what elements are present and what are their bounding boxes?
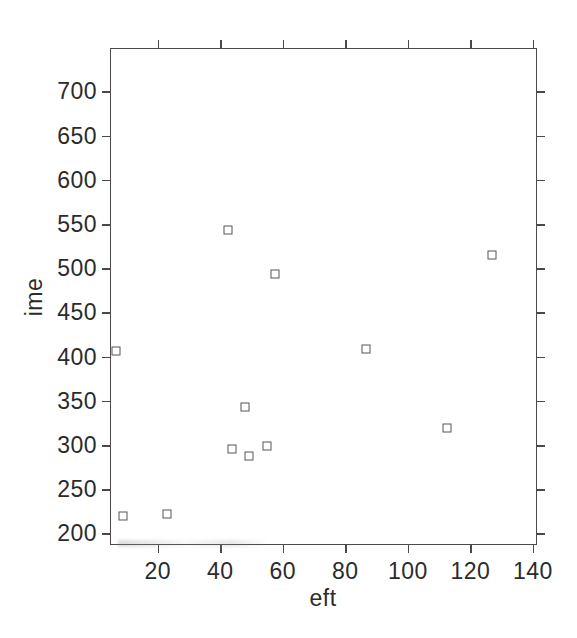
data-point-marker	[112, 347, 121, 356]
x-axis-tick-top	[220, 40, 222, 49]
y-axis-tick	[102, 401, 111, 403]
y-axis-tick-right	[536, 312, 545, 314]
x-axis-tick-label: 80	[332, 558, 359, 585]
y-axis-tick-label: 450	[57, 299, 97, 326]
scan-artifact-smudge	[118, 540, 268, 547]
x-axis-tick	[408, 544, 410, 553]
x-axis-tick	[345, 544, 347, 553]
y-axis-tick-right	[536, 136, 545, 138]
y-axis-tick-right	[536, 533, 545, 535]
y-axis-tick	[102, 180, 111, 182]
y-axis-tick	[102, 224, 111, 226]
plot-area-frame: 2002503003504004505005506006507002040608…	[110, 48, 537, 545]
scatter-plot-figure: 2002503003504004505005506006507002040608…	[0, 0, 577, 638]
y-axis-tick-label: 700	[57, 78, 97, 105]
data-point-marker	[244, 452, 253, 461]
data-point-marker	[270, 269, 279, 278]
x-axis-tick-label: 40	[207, 558, 234, 585]
y-axis-tick-label: 500	[57, 255, 97, 282]
x-axis-tick	[533, 544, 535, 553]
x-axis-tick-top	[345, 40, 347, 49]
y-axis-tick	[102, 268, 111, 270]
x-axis-tick-top	[158, 40, 160, 49]
x-axis-label: eft	[309, 585, 336, 612]
y-axis-tick	[102, 312, 111, 314]
y-axis-tick-right	[536, 489, 545, 491]
data-point-marker	[487, 250, 496, 259]
x-axis-tick-top	[408, 40, 410, 49]
x-axis-tick-top	[470, 40, 472, 49]
data-point-marker	[162, 509, 171, 518]
y-axis-tick-label: 250	[57, 476, 97, 503]
y-axis-tick-right	[536, 445, 545, 447]
y-axis-tick-right	[536, 91, 545, 93]
data-point-marker	[262, 441, 271, 450]
x-axis-tick-label: 60	[270, 558, 297, 585]
y-axis-tick-label: 350	[57, 387, 97, 414]
data-point-marker	[240, 402, 249, 411]
y-axis-tick-label: 400	[57, 343, 97, 370]
x-axis-tick-label: 120	[450, 558, 490, 585]
y-axis-tick-right	[536, 180, 545, 182]
x-axis-tick-top	[283, 40, 285, 49]
y-axis-label: ime	[21, 278, 48, 317]
x-axis-tick-top	[533, 40, 535, 49]
x-axis-tick	[283, 544, 285, 553]
y-axis-tick-right	[536, 268, 545, 270]
x-axis-tick-label: 20	[145, 558, 172, 585]
data-point-marker	[362, 344, 371, 353]
y-axis-tick-right	[536, 224, 545, 226]
data-point-marker	[442, 424, 451, 433]
y-axis-tick-label: 600	[57, 166, 97, 193]
y-axis-tick	[102, 136, 111, 138]
data-point-marker	[223, 226, 232, 235]
y-axis-tick-label: 200	[57, 520, 97, 547]
x-axis-tick	[470, 544, 472, 553]
data-point-marker	[118, 511, 127, 520]
y-axis-tick-label: 300	[57, 432, 97, 459]
x-axis-tick-label: 100	[388, 558, 428, 585]
y-axis-tick-right	[536, 401, 545, 403]
y-axis-tick	[102, 489, 111, 491]
x-axis-tick-label: 140	[513, 558, 553, 585]
y-axis-tick	[102, 357, 111, 359]
data-point-marker	[227, 444, 236, 453]
y-axis-tick	[102, 91, 111, 93]
y-axis-tick	[102, 445, 111, 447]
y-axis-tick	[102, 533, 111, 535]
y-axis-tick-label: 550	[57, 211, 97, 238]
y-axis-tick-right	[536, 357, 545, 359]
y-axis-tick-label: 650	[57, 122, 97, 149]
